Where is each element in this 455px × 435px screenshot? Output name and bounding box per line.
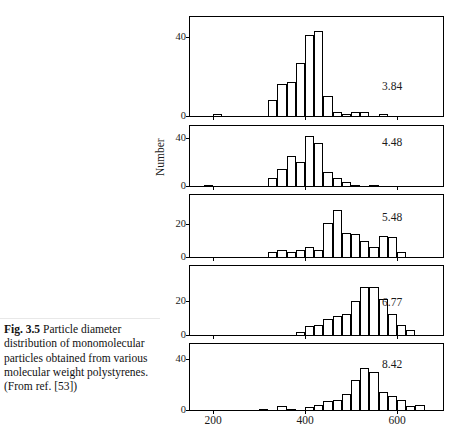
plot-box: 040 <box>190 17 443 116</box>
y-tick-label: 0 <box>181 252 186 263</box>
figure-caption: Fig. 3.5 Particle diameter distribution … <box>4 322 176 393</box>
histogram-bar <box>342 114 351 116</box>
y-tick-mark <box>186 138 190 139</box>
histogram-bar <box>305 136 314 186</box>
histogram-bar <box>351 112 360 116</box>
panel-series-label: 4.48 <box>382 136 402 148</box>
y-tick-mark <box>186 116 190 117</box>
y-tick-label: 0 <box>181 181 186 192</box>
histogram-bar <box>287 409 296 411</box>
y-tick-mark <box>186 37 190 38</box>
histogram-bar <box>287 82 296 116</box>
histogram-bar <box>323 319 332 335</box>
page-rule-top <box>0 318 160 319</box>
histogram-bar <box>296 63 305 116</box>
histogram-panel: 020 <box>189 194 444 258</box>
histogram-bar <box>388 237 397 257</box>
histogram-bar <box>388 314 397 335</box>
histogram-bar <box>333 112 342 116</box>
histogram-bar <box>360 287 369 335</box>
y-tick-label: 0 <box>181 330 186 341</box>
histogram-bar <box>351 185 360 187</box>
x-tick-mark <box>305 116 306 120</box>
histogram-bar <box>406 406 415 410</box>
y-tick-label: 40 <box>176 133 187 144</box>
histogram-bar <box>360 112 369 116</box>
histogram-bar <box>369 372 378 410</box>
histogram-bar <box>277 406 286 410</box>
x-tick-mark <box>397 116 398 120</box>
y-tick-label: 20 <box>176 219 187 230</box>
histogram-bar <box>259 409 268 411</box>
histogram-bar <box>342 314 351 335</box>
histogram-bar <box>333 178 342 186</box>
histogram-bar <box>305 247 314 257</box>
y-tick-mark <box>186 335 190 336</box>
panel-series-label: 3.84 <box>382 80 402 92</box>
histogram-bar <box>323 172 332 186</box>
histogram-panel: 040200400600 <box>189 343 444 411</box>
y-tick-mark <box>186 257 190 258</box>
x-tick-mark <box>305 257 306 261</box>
histogram-bar <box>323 401 332 410</box>
histogram-panel: 040 <box>189 16 444 117</box>
figure-caption-label: Fig. 3.5 <box>4 323 40 335</box>
histogram-bar <box>360 241 369 257</box>
y-axis-title: Number <box>154 138 166 176</box>
histogram-bar <box>204 185 213 187</box>
histogram-panel: 040 <box>189 125 444 187</box>
histogram-bar <box>314 250 323 257</box>
histogram-bar <box>296 332 305 335</box>
histogram-bar <box>323 223 332 257</box>
histogram-bar <box>379 236 388 257</box>
histogram-panel: 020 <box>189 265 444 336</box>
histogram-bar <box>342 233 351 257</box>
histogram-bar <box>369 185 378 187</box>
histogram-bar <box>351 301 360 336</box>
histogram-bar <box>415 405 424 410</box>
histogram-bar <box>314 405 323 410</box>
histogram-bar <box>296 250 305 257</box>
figure-root: Fig. 3.5 Particle diameter distribution … <box>0 0 455 435</box>
x-tick-mark <box>213 335 214 339</box>
y-tick-label: 40 <box>176 32 187 43</box>
histogram-bar <box>287 252 296 257</box>
histogram-bar <box>314 31 323 116</box>
histogram-bar <box>268 100 277 116</box>
chart-area: Number Mw × 10−6 04004002002004020040060… <box>160 8 452 428</box>
x-tick-label: 200 <box>204 414 221 426</box>
histogram-bar <box>333 400 342 410</box>
histogram-bar <box>333 210 342 257</box>
panel-series-label: 5.48 <box>382 211 402 223</box>
histogram-bar <box>351 380 360 410</box>
histogram-bar <box>277 250 286 257</box>
histogram-bar <box>314 143 323 186</box>
histogram-bar <box>213 114 222 116</box>
histogram-bar <box>369 247 378 257</box>
plot-box: 020 <box>190 266 443 335</box>
y-tick-mark <box>186 224 190 225</box>
histogram-bar <box>379 392 388 410</box>
x-tick-mark <box>305 186 306 190</box>
y-tick-mark <box>186 301 190 302</box>
histogram-bar <box>406 330 415 335</box>
histogram-bar <box>305 326 314 335</box>
histogram-bar <box>287 156 296 186</box>
histogram-bar <box>369 287 378 335</box>
histogram-bar <box>360 368 369 410</box>
y-tick-mark <box>186 186 190 187</box>
plot-box: 040 <box>190 126 443 186</box>
y-tick-label: 0 <box>181 111 186 122</box>
panel-series-label: 6.77 <box>382 296 402 308</box>
x-tick-mark <box>213 116 214 120</box>
histogram-bar <box>305 407 314 410</box>
y-tick-mark <box>186 410 190 411</box>
x-tick-mark <box>305 335 306 339</box>
histogram-bar <box>314 325 323 335</box>
x-tick-mark <box>397 186 398 190</box>
x-tick-mark <box>397 257 398 261</box>
histogram-bar <box>296 162 305 186</box>
histogram-bar <box>268 252 277 257</box>
histogram-bar <box>305 35 314 116</box>
histogram-bar <box>268 178 277 186</box>
